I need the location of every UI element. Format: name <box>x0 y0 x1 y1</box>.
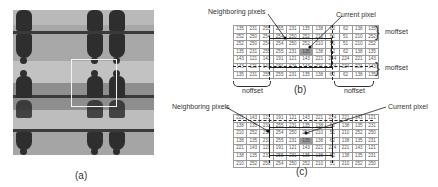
arrow-neighbors-c <box>226 107 268 131</box>
arrow-head-current-c <box>304 131 307 134</box>
arrow-neighbors-b <box>268 14 285 38</box>
arrow-current-c <box>306 107 386 133</box>
arrow-current-b <box>310 16 342 47</box>
arrow-head-neighbors-b <box>283 36 286 39</box>
annotation-arrows <box>0 0 438 187</box>
arrow-head-current-b <box>308 45 311 48</box>
arrow-head-neighbors-c <box>266 129 269 132</box>
